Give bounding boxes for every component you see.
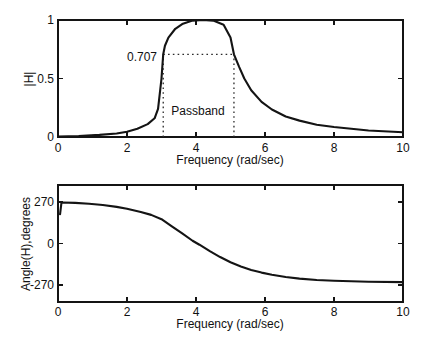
x-tick-label: 6 bbox=[250, 305, 280, 319]
x-tick-label: 6 bbox=[250, 141, 280, 155]
plots-canvas bbox=[0, 0, 430, 350]
phase-plot bbox=[58, 185, 403, 302]
y-tick-label: 1 bbox=[8, 13, 54, 27]
phase-x-axis-label: Frequency (rad/sec) bbox=[130, 317, 330, 331]
axes-box bbox=[58, 185, 403, 302]
x-tick-label: 10 bbox=[388, 305, 418, 319]
x-tick-label: 4 bbox=[181, 305, 211, 319]
x-tick-label: 8 bbox=[319, 305, 349, 319]
x-tick-label: 2 bbox=[112, 141, 142, 155]
x-tick-label: 4 bbox=[181, 141, 211, 155]
figure: |H| 0.707 Passband Frequency (rad/sec) A… bbox=[0, 0, 430, 350]
magnitude-curve bbox=[58, 20, 403, 137]
y-tick-label: 270 bbox=[8, 195, 54, 209]
y-tick-label: 0 bbox=[8, 130, 54, 144]
magnitude-plot bbox=[58, 20, 403, 137]
cutoff-annotation: 0.707 bbox=[105, 50, 157, 64]
y-tick-label: 0.5 bbox=[8, 72, 54, 86]
y-tick-label: 0 bbox=[8, 237, 54, 251]
x-tick-label: 0 bbox=[43, 305, 73, 319]
y-tick-label: -270 bbox=[8, 278, 54, 292]
phase-curve bbox=[60, 203, 403, 283]
x-tick-label: 2 bbox=[112, 305, 142, 319]
passband-annotation: Passband bbox=[158, 104, 238, 118]
magnitude-x-axis-label: Frequency (rad/sec) bbox=[130, 153, 330, 167]
x-tick-label: 10 bbox=[388, 141, 418, 155]
x-tick-label: 8 bbox=[319, 141, 349, 155]
